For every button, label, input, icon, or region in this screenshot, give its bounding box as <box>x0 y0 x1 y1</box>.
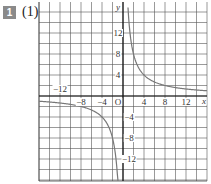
y-axis-label: y <box>115 2 120 12</box>
hyperbola-graph: −12−8−448121284−4−8−12Oxy <box>0 0 211 184</box>
x-tick-label: −12 <box>53 84 67 94</box>
curve-branch-negative <box>39 101 118 181</box>
y-tick-label: −4 <box>124 112 134 122</box>
origin-label: O <box>115 97 122 107</box>
x-tick-label: 12 <box>182 97 191 107</box>
curve-branch-positive <box>128 8 207 91</box>
y-tick-label: 12 <box>114 28 123 38</box>
x-tick-label: 4 <box>142 97 147 107</box>
x-tick-label: −4 <box>97 97 107 107</box>
x-tick-label: −8 <box>76 97 86 107</box>
x-axis-label: x <box>201 96 206 106</box>
x-tick-label: 8 <box>163 97 168 107</box>
y-tick-label: −12 <box>122 154 136 164</box>
y-tick-label: 4 <box>116 70 121 80</box>
y-tick-label: 8 <box>116 49 121 59</box>
y-tick-label: −8 <box>124 133 134 143</box>
